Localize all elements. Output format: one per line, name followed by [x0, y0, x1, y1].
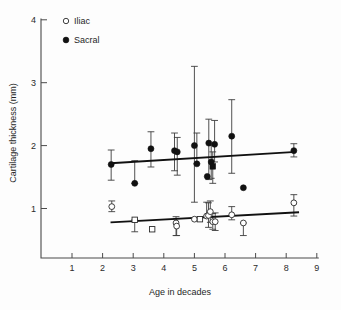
- x-tick-label-4: 4: [161, 263, 166, 273]
- x-tick-label-6: 6: [222, 263, 227, 273]
- x-tick-label-3: 3: [131, 263, 136, 273]
- markers-iliac: [109, 200, 297, 232]
- data-point-sacral: [174, 149, 180, 155]
- data-point-iliac: [207, 209, 213, 215]
- x-tick-label-7: 7: [253, 263, 258, 273]
- data-point-iliac: [240, 220, 246, 226]
- y-tick-label-3: 3: [31, 78, 36, 88]
- data-point-sacral: [204, 173, 210, 179]
- trend-line-sacral: [111, 152, 296, 163]
- data-point-sacral: [108, 161, 114, 167]
- legend-marker-iliac: [63, 18, 68, 23]
- y-tick-label-1: 1: [31, 204, 36, 214]
- data-point-sacral: [229, 133, 235, 139]
- y-axis-title: Cartilage thickness (mm): [8, 83, 18, 183]
- x-axis-title: Age in decades: [149, 287, 212, 297]
- x-tick-label-8: 8: [284, 263, 289, 273]
- x-tick-label-9: 9: [314, 263, 319, 273]
- data-point-iliac: [212, 219, 218, 225]
- data-point-sacral: [191, 143, 197, 149]
- scatter-plot-canvas: 1234567891234Age in decadesCartilage thi…: [0, 0, 341, 310]
- y-tick-label-2: 2: [31, 141, 36, 151]
- legend-marker-sacral: [63, 37, 69, 43]
- data-point-iliac-square: [149, 227, 154, 232]
- chart-legend: IliacSacral: [63, 16, 99, 45]
- data-point-sacral-square: [210, 164, 216, 170]
- x-tick-label-5: 5: [192, 263, 197, 273]
- data-point-sacral: [206, 140, 212, 146]
- chart-figure: 1234567891234Age in decadesCartilage thi…: [0, 0, 341, 310]
- plot-axes: [41, 19, 319, 258]
- data-point-sacral: [132, 180, 138, 186]
- data-point-iliac: [109, 204, 115, 210]
- x-tick-label-1: 1: [69, 263, 74, 273]
- legend-label-iliac: Iliac: [74, 16, 91, 26]
- legend-label-sacral: Sacral: [74, 35, 100, 45]
- data-point-iliac: [174, 223, 180, 229]
- data-point-iliac-square: [132, 217, 137, 222]
- data-point-iliac: [229, 212, 235, 218]
- series-iliac: [108, 195, 297, 236]
- y-tick-label-4: 4: [31, 15, 36, 25]
- data-point-sacral: [291, 148, 297, 154]
- data-point-iliac-square: [197, 216, 202, 221]
- data-point-sacral: [194, 161, 200, 167]
- data-point-iliac: [192, 216, 198, 222]
- data-point-sacral: [240, 185, 246, 191]
- data-point-iliac: [291, 200, 297, 206]
- x-tick-label-2: 2: [100, 263, 105, 273]
- data-point-sacral: [148, 146, 154, 152]
- data-point-sacral: [212, 141, 218, 147]
